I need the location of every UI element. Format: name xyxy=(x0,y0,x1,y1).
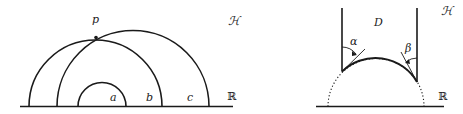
label-upper-half-plane-right: ℋ xyxy=(441,4,455,18)
label-upper-half-plane-left: ℋ xyxy=(228,14,242,28)
left-panel: p ℋ ℝ a b c xyxy=(20,13,242,107)
geodesic-arc-b xyxy=(29,40,162,106)
label-a: a xyxy=(110,91,117,104)
hyperbolic-geometry-figure: p ℋ ℝ a b c D ℋ ℝ α β xyxy=(0,0,463,114)
intersection-point-p xyxy=(94,36,98,40)
label-p: p xyxy=(92,13,99,26)
label-b: b xyxy=(146,91,153,104)
label-beta: β xyxy=(404,42,411,55)
geodesic-arc-a xyxy=(78,83,126,107)
label-real-line-right: ℝ xyxy=(438,90,448,103)
label-real-line-left: ℝ xyxy=(227,90,237,103)
right-panel: D ℋ ℝ α β xyxy=(316,4,455,107)
label-c: c xyxy=(187,91,193,104)
label-alpha: α xyxy=(350,35,358,48)
label-domain-D: D xyxy=(373,16,383,29)
